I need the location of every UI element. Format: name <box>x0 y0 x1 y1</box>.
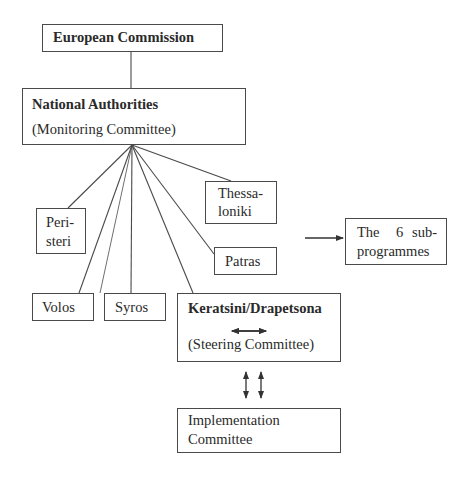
implementation-line2: Committee <box>188 431 252 448</box>
volos-box: Volos <box>32 293 94 321</box>
line-patras <box>132 145 214 254</box>
subprogrammes-line2: programmes <box>357 243 429 260</box>
peristeri-line1: Peri- <box>46 214 74 231</box>
subprogrammes-line1a: The <box>357 224 380 241</box>
line-thessaloniki <box>132 145 231 181</box>
line-syros <box>131 145 132 293</box>
volos-label: Volos <box>42 299 75 316</box>
syros-box: Syros <box>104 293 166 321</box>
line-volos <box>79 145 132 293</box>
subprogrammes-line1b: 6 <box>396 224 403 241</box>
peristeri-line2: steri <box>46 233 71 250</box>
subprogrammes-box: The 6 sub- programmes <box>345 218 447 265</box>
peristeri-box: Peri- steri <box>36 208 86 254</box>
keratsini-drapetsona-title: Keratsini/Drapetsona <box>188 300 322 317</box>
line-peristeri <box>68 145 132 208</box>
thessaloniki-box: Thessa- loniki <box>205 181 277 224</box>
national-authorities-box: National Authorities (Monitoring Committ… <box>22 88 246 145</box>
european-commission-box: European Commission <box>42 24 223 52</box>
steering-committee-subtitle: (Steering Committee) <box>188 336 314 353</box>
thessaloniki-line2: loniki <box>218 203 252 220</box>
national-authorities-subtitle: (Monitoring Committee) <box>32 121 176 138</box>
national-authorities-title: National Authorities <box>32 96 158 113</box>
thessaloniki-line1: Thessa- <box>218 185 263 202</box>
keratsini-drapetsona-box: Keratsini/Drapetsona (Steering Committee… <box>177 293 341 362</box>
implementation-committee-box: Implementation Committee <box>177 408 341 453</box>
line-keratsini <box>132 145 193 293</box>
subprogrammes-line1c: sub- <box>412 224 437 241</box>
european-commission-label: European Commission <box>53 29 194 46</box>
implementation-line1: Implementation <box>188 412 280 429</box>
patras-box: Patras <box>214 247 277 275</box>
syros-label: Syros <box>115 299 148 316</box>
patras-label: Patras <box>225 253 260 270</box>
